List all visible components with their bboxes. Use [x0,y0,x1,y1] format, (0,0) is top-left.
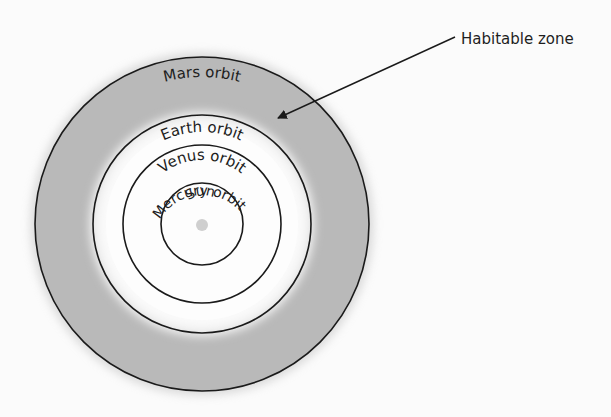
habitable-zone-arrow [278,37,455,118]
sun-dot [196,219,208,231]
habitable-zone-label: Habitable zone [461,30,574,48]
solar-system-habitable-zone-diagram: Mars orbit Earth orbit Venus orbit Mercu… [0,0,611,417]
